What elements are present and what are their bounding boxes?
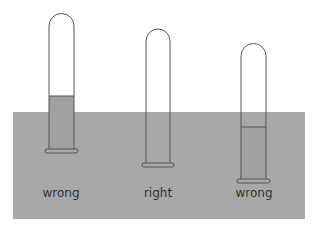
tube-2 [142, 29, 174, 167]
tube-1 [45, 13, 78, 153]
tube-3-label: wrong [224, 186, 284, 200]
tube-2-label: right [128, 186, 188, 200]
tube-1-label: wrong [31, 186, 91, 200]
